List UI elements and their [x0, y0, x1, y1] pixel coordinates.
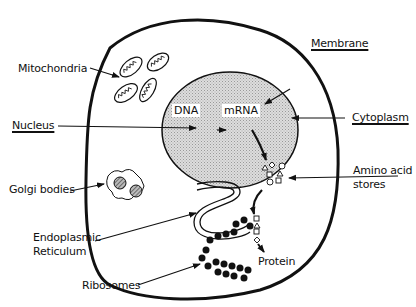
label-cytoplasm: Cytoplasm [352, 112, 409, 124]
label-protein: Protein [258, 256, 295, 268]
label-golgi-bodies: Golgi bodies [9, 184, 75, 196]
label-endoplasmic-reticulum-1: Endoplasmic [33, 232, 101, 244]
nucleus [162, 72, 298, 188]
golgi-bodies [107, 169, 144, 199]
label-ribosomes: Ribosomes [82, 280, 140, 292]
label-endoplasmic-reticulum-2: Reticulum [33, 246, 86, 258]
label-mrna: mRNA [222, 104, 260, 117]
label-amino-acid-2: stores [353, 179, 385, 191]
label-membrane: Membrane [311, 38, 368, 50]
mitochondria-group [111, 49, 172, 106]
label-mitochondria: Mitochondria [18, 63, 87, 75]
label-nucleus: Nucleus [12, 120, 54, 132]
endoplasmic-reticulum [194, 182, 250, 239]
label-amino-acid-1: Amino acid [353, 165, 412, 177]
label-dna: DNA [172, 104, 200, 117]
